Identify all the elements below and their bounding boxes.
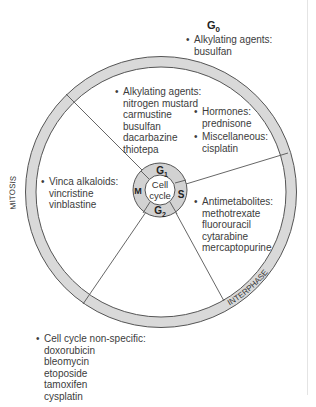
bullet: • (194, 106, 198, 118)
drug-item: doxorubicin (44, 345, 146, 357)
group-heading: Cell cycle non-specific: (44, 333, 146, 345)
bullet: • (186, 34, 190, 46)
drug-item: carmustine (123, 109, 201, 121)
s-antimetabolites-group: • Antimetabolites: methotrexate fluorour… (202, 196, 273, 254)
drug-item: methotrexate (202, 208, 273, 220)
drug-item: thiotepa (123, 144, 201, 156)
miscellaneous-group: • Miscellaneous: cisplatin (202, 131, 268, 154)
hormones-group: • Hormones: prednisone (202, 106, 251, 129)
m-vinca-alkaloids-group: • Vinca alkaloids: vincristine vinblasti… (49, 176, 118, 211)
g0-heading: G0 (207, 19, 220, 34)
drug-item: cisplatin (202, 143, 268, 155)
cell-cycle-nonspecific-group: • Cell cycle non-specific: doxorubicin b… (44, 333, 146, 402)
bullet: • (194, 131, 198, 143)
center-label-line2: cycle (149, 190, 171, 201)
group-heading: Antimetabolites: (202, 196, 273, 208)
drug-item: vinblastine (49, 199, 118, 211)
drug-item: cysplatin (44, 391, 146, 403)
bullet: • (194, 196, 198, 208)
group-heading: Vinca alkaloids: (49, 176, 118, 188)
drug-item: dacarbazine (123, 132, 201, 144)
group-heading: Hormones: (202, 106, 251, 118)
drug-item: mercaptopurine (202, 242, 273, 254)
drug-item: busulfan (194, 46, 272, 58)
drug-item: busulfan (123, 121, 201, 133)
center-label-line1: Cell (152, 179, 168, 190)
drug-item: tamoxifen (44, 379, 146, 391)
drug-item: etoposide (44, 368, 146, 380)
bullet: • (115, 86, 119, 98)
phase-s-label: S (178, 189, 185, 200)
group-heading: Alkylating agents: (194, 34, 272, 46)
drug-item: bleomycin (44, 356, 146, 368)
group-heading: Miscellaneous: (202, 131, 268, 143)
drug-item: vincristine (49, 188, 118, 200)
g1-alkylating-group: • Alkylating agents: nitrogen mustard ca… (123, 86, 201, 155)
drug-item: prednisone (202, 118, 251, 130)
drug-item: nitrogen mustard (123, 98, 201, 110)
drug-item: fluorouracil (202, 219, 273, 231)
mitosis-ring-label: MITOSIS (8, 175, 18, 209)
group-heading: Alkylating agents: (123, 86, 201, 98)
g0-drug-group: • Alkylating agents: busulfan (194, 34, 272, 57)
drug-item: cytarabine (202, 231, 273, 243)
bullet: • (41, 176, 45, 188)
bullet: • (36, 333, 40, 345)
phase-m-label: M (134, 186, 142, 196)
